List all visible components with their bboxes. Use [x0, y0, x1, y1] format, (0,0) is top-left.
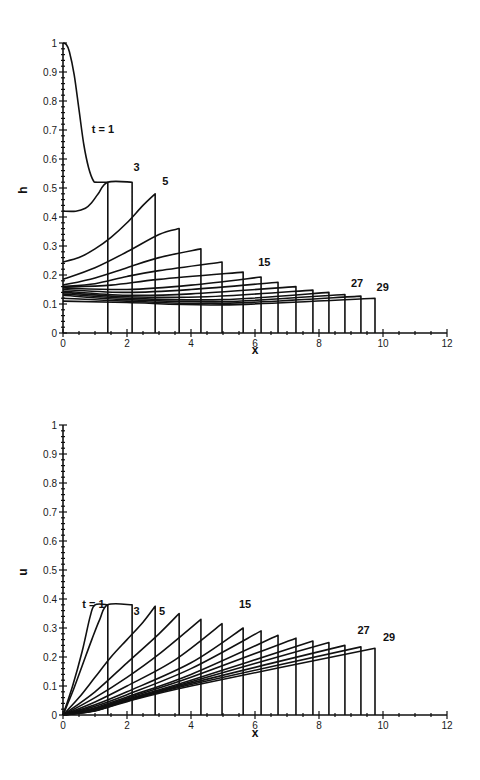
y-tick-label: 0.6	[43, 154, 57, 165]
x-tick-label: 4	[188, 338, 194, 349]
x-tick-label: 8	[316, 720, 322, 731]
y-tick-label: 0.4	[43, 594, 57, 605]
x-tick-label: 12	[441, 720, 453, 731]
y-tick-label: 0.7	[43, 125, 57, 136]
curve-annotation: 15	[258, 256, 270, 268]
curve-annotation: 3	[133, 605, 139, 617]
y-tick-label: 0.3	[43, 241, 57, 252]
y-tick-label: 0.7	[43, 507, 57, 518]
x-tick-label: 10	[377, 338, 389, 349]
curve-annotation: 5	[162, 175, 168, 187]
curve-annotation: 3	[133, 161, 139, 173]
x-tick-label: 12	[441, 338, 453, 349]
curve-t-3	[63, 181, 132, 333]
u-vs-x-plot: 00.10.20.30.40.50.60.70.80.91024681012xu…	[16, 420, 453, 741]
curve-annotation: 29	[383, 631, 395, 643]
x-tick-label: 4	[188, 720, 194, 731]
x-tick-label: 2	[124, 720, 130, 731]
y-tick-label: 1	[51, 38, 57, 49]
y-axis-label: h	[16, 186, 30, 193]
x-axis-label: x	[252, 726, 259, 740]
y-tick-label: 0	[51, 710, 57, 721]
curve-annotation: t = 1	[92, 123, 114, 135]
y-tick-label: 0.2	[43, 270, 57, 281]
figure: 00.10.20.30.40.50.60.70.80.91024681012xh…	[0, 0, 480, 780]
curve-annotation: 5	[159, 605, 165, 617]
y-tick-label: 0.2	[43, 652, 57, 663]
x-tick-label: 10	[377, 720, 389, 731]
curve-annotation: 29	[377, 281, 389, 293]
y-tick-label: 0.5	[43, 183, 57, 194]
x-tick-label: 8	[316, 338, 322, 349]
x-tick-label: 2	[124, 338, 130, 349]
curve-annotation: 27	[357, 624, 369, 636]
h-vs-x-plot: 00.10.20.30.40.50.60.70.80.91024681012xh…	[16, 38, 453, 358]
x-tick-label: 0	[60, 338, 66, 349]
y-tick-label: 0.4	[43, 212, 57, 223]
y-tick-label: 0.1	[43, 299, 57, 310]
y-axis-label: u	[16, 568, 30, 575]
y-tick-label: 0.8	[43, 96, 57, 107]
y-tick-label: 1	[51, 420, 57, 431]
y-tick-label: 0.9	[43, 449, 57, 460]
y-tick-label: 0.6	[43, 536, 57, 547]
x-axis-label: x	[252, 343, 259, 357]
curve-annotation: t = 1	[82, 598, 104, 610]
curve-annotation: 27	[351, 277, 363, 289]
y-tick-label: 0	[51, 328, 57, 339]
y-tick-label: 0.3	[43, 623, 57, 634]
y-tick-label: 0.5	[43, 565, 57, 576]
x-tick-label: 0	[60, 720, 66, 731]
y-tick-label: 0.1	[43, 681, 57, 692]
y-tick-label: 0.8	[43, 478, 57, 489]
y-tick-label: 0.9	[43, 67, 57, 78]
curve-annotation: 15	[239, 598, 251, 610]
curve-t-11	[63, 624, 222, 715]
